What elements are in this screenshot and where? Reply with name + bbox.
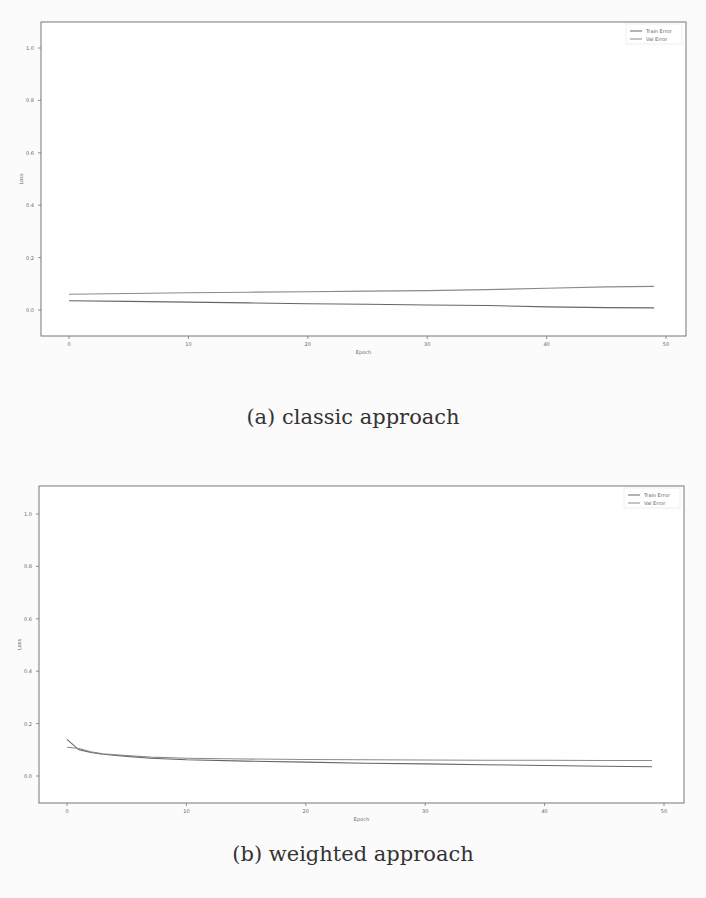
y-tick-label: 0.4: [24, 668, 32, 674]
x-tick-label: 30: [422, 808, 428, 814]
y-tick-label: 0.0: [24, 773, 32, 779]
legend-label: Val Error: [644, 500, 666, 506]
x-tick-label: 20: [303, 808, 309, 814]
legend-label: Train Error: [643, 492, 671, 498]
y-tick-label: 1.0: [24, 511, 32, 517]
x-tick-label: 0: [65, 808, 68, 814]
y-axis-label: Loss: [16, 639, 22, 650]
y-tick-label: 0.8: [24, 563, 32, 569]
x-tick-label: 40: [541, 808, 547, 814]
figure-weighted: 0.00.20.40.60.81.001020304050EpochLossTr…: [0, 0, 706, 898]
x-tick-label: 10: [183, 808, 189, 814]
y-tick-label: 0.6: [24, 616, 32, 622]
x-tick-label: 50: [661, 808, 667, 814]
y-tick-label: 0.2: [24, 721, 32, 727]
plot-frame: [39, 486, 684, 803]
x-axis-label: Epoch: [354, 816, 369, 823]
loss-chart-weighted: 0.00.20.40.60.81.001020304050EpochLossTr…: [0, 0, 706, 898]
caption-weighted: (b) weighted approach: [0, 842, 706, 866]
